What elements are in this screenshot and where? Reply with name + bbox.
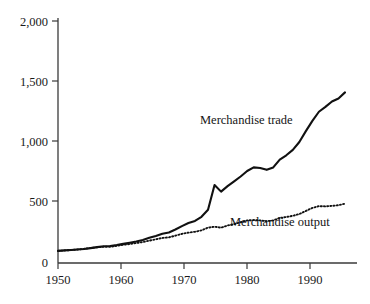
- y-tick-label: 1,000: [20, 135, 48, 149]
- y-tick-label: 2,000: [20, 15, 48, 29]
- line-chart-plot: 2,0001,5001,0005000 19501960197019801990…: [0, 0, 370, 304]
- x-tick-label: 1960: [109, 273, 134, 287]
- series-annotation: Merchandise trade: [200, 113, 293, 127]
- y-tick-label: 0: [42, 256, 48, 270]
- y-tick-label: 1,500: [20, 75, 48, 89]
- series-annotation: Merchandise output: [230, 215, 330, 229]
- y-tick-label: 500: [29, 195, 48, 209]
- x-tick-label: 1970: [172, 273, 197, 287]
- x-tick-label: 1980: [235, 273, 260, 287]
- x-tick-label: 1990: [298, 273, 323, 287]
- chart-figure: 2,0001,5001,0005000 19501960197019801990…: [0, 0, 370, 304]
- chart-background: [0, 0, 370, 304]
- x-tick-label: 1950: [46, 273, 71, 287]
